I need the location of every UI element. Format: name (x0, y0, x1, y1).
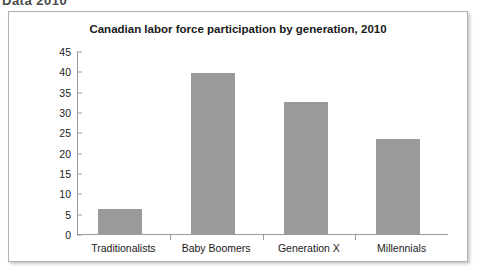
y-tick-mark (77, 153, 82, 154)
y-tick-label: 20 (59, 148, 71, 160)
bar (98, 209, 142, 235)
y-tick-mark (77, 214, 82, 215)
y-tick-mark (77, 235, 82, 236)
chart-title: Canadian labor force participation by ge… (9, 23, 467, 35)
y-tick-mark (77, 133, 82, 134)
y-tick-label: 10 (59, 188, 71, 200)
y-tick-mark (77, 72, 82, 73)
chart-panel: Canadian labor force participation by ge… (8, 11, 468, 262)
x-axis-separator (263, 235, 264, 240)
plot-area: 051015202530354045 TraditionalistsBaby B… (77, 52, 448, 235)
x-tick-label: Baby Boomers (182, 242, 251, 254)
y-tick-label: 30 (59, 107, 71, 119)
x-axis-separator (170, 235, 171, 240)
bar (191, 73, 235, 235)
bar (376, 139, 420, 235)
y-tick-label: 45 (59, 46, 71, 58)
y-tick-label: 40 (59, 66, 71, 78)
cropped-header-text: Data 2010 (2, 0, 122, 5)
y-tick-label: 15 (59, 168, 71, 180)
y-tick-label: 35 (59, 87, 71, 99)
y-tick-mark (77, 52, 82, 53)
y-tick-mark (77, 92, 82, 93)
y-tick-label: 5 (65, 209, 71, 221)
x-tick-label: Generation X (278, 242, 340, 254)
bar (284, 102, 328, 235)
y-tick-mark (77, 113, 82, 114)
x-tick-label: Traditionalists (91, 242, 155, 254)
x-tick-label: Millennials (377, 242, 426, 254)
y-tick-label: 25 (59, 127, 71, 139)
y-axis-line (77, 52, 78, 235)
y-tick-mark (77, 174, 82, 175)
x-axis-separator (355, 235, 356, 240)
y-tick-mark (77, 194, 82, 195)
y-tick-label: 0 (65, 229, 71, 241)
